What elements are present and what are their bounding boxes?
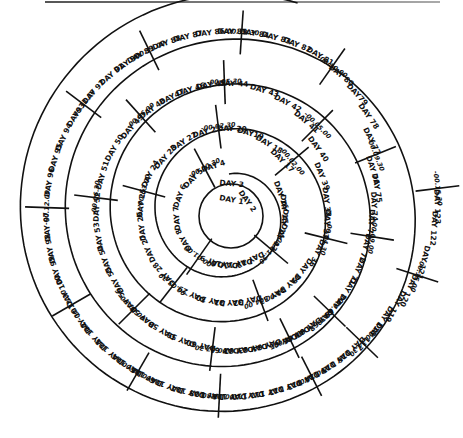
day-label: DAY 39 bbox=[312, 161, 332, 192]
time-marker-label: -00.12.30 bbox=[59, 288, 84, 323]
center-circle bbox=[199, 184, 263, 248]
day-label: DAY 50 bbox=[103, 133, 126, 163]
day-label: DAY 43 bbox=[249, 82, 280, 99]
day-label: DAY 38 bbox=[320, 187, 333, 218]
time-marker-label: -00.05.30 bbox=[207, 77, 243, 86]
time-marker-label: -00.03.30 bbox=[157, 271, 190, 299]
day-label: DAY 3 bbox=[219, 178, 244, 189]
time-marker-label: -00.14.00 bbox=[294, 365, 329, 388]
day-label: DAY 27 bbox=[138, 233, 158, 264]
day-labels: DAY 1DAY 2DAY 3DAY 4DAY 5DAY 6DAY 7DAY 8… bbox=[41, 27, 442, 402]
spiral-calendar-diagram: DAY 1DAY 2DAY 3DAY 4DAY 5DAY 6DAY 7DAY 8… bbox=[0, 0, 463, 438]
time-marker-label: -00.13.00 bbox=[120, 359, 155, 384]
day-label: DAY 6 bbox=[171, 183, 188, 209]
time-marker-label: -00.11.00 bbox=[132, 39, 167, 62]
day-label: DAY 7 bbox=[171, 206, 182, 231]
time-marker-label: -00.12.00 bbox=[42, 190, 51, 226]
